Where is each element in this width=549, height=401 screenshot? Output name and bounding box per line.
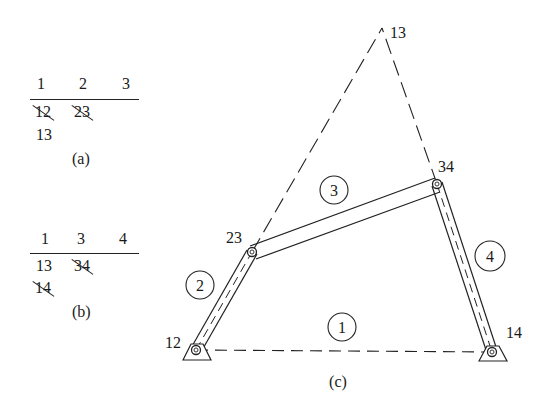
link-2-crank xyxy=(191,250,257,352)
svg-text:3: 3 xyxy=(330,182,338,199)
pin-joint-23 xyxy=(248,248,257,257)
link-4-rocker xyxy=(432,182,497,353)
link-label-1: 1 xyxy=(328,313,356,341)
joint-label-14: 14 xyxy=(506,324,522,341)
joint-label-34: 34 xyxy=(438,158,454,175)
ground-link-1 xyxy=(196,350,492,352)
construction-line-23-to-13 xyxy=(252,28,382,252)
link-label-3: 3 xyxy=(320,176,348,204)
joint-label-12: 12 xyxy=(165,334,181,351)
link-label-4: 4 xyxy=(475,241,505,271)
pin-joint-34 xyxy=(433,180,442,189)
link-label-2: 2 xyxy=(186,271,214,299)
pin-joint-12 xyxy=(192,346,201,355)
joint-label-23: 23 xyxy=(226,229,242,246)
pin-joint-14 xyxy=(488,348,497,357)
link-3-coupler xyxy=(250,178,440,259)
svg-text:1: 1 xyxy=(338,319,346,336)
diagram-caption-c: (c) xyxy=(329,373,347,391)
construction-line-34-to-13 xyxy=(382,28,437,184)
four-bar-linkage-diagram: 13 34 23 12 14 1 2 3 4 (c) xyxy=(0,0,549,401)
joint-label-13: 13 xyxy=(390,24,406,41)
svg-text:4: 4 xyxy=(486,248,494,265)
svg-text:2: 2 xyxy=(196,277,204,294)
